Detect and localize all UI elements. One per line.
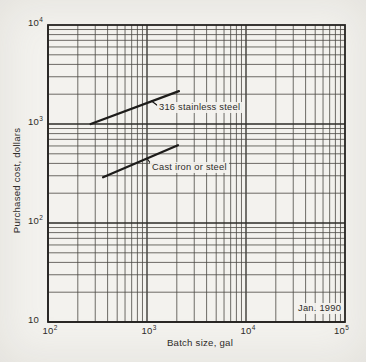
series-label-cast-iron-or-steel: Cast iron or steel [150,162,229,173]
plot-border [48,25,345,322]
x-axis-title: Batch size, gal [116,337,284,348]
y-axis-title: Purchased cost, dollars [11,111,24,251]
y-tick-label: 103 [28,115,43,127]
y-tick-label: 10 [28,314,39,325]
series-label-316-stainless-steel: 316 stainless steel [157,102,242,113]
date-annotation: Jan. 1990 [296,303,343,314]
y-tick-label: 102 [28,214,43,226]
x-tick-label: 103 [142,324,157,336]
x-tick-label: 104 [241,324,256,336]
x-tick-label: 102 [43,324,58,336]
y-tick-label: 104 [28,16,43,28]
x-tick-label: 105 [334,324,349,336]
scanned-cost-chart-figure: 10210310410510102103104 316 stainless st… [0,0,366,362]
